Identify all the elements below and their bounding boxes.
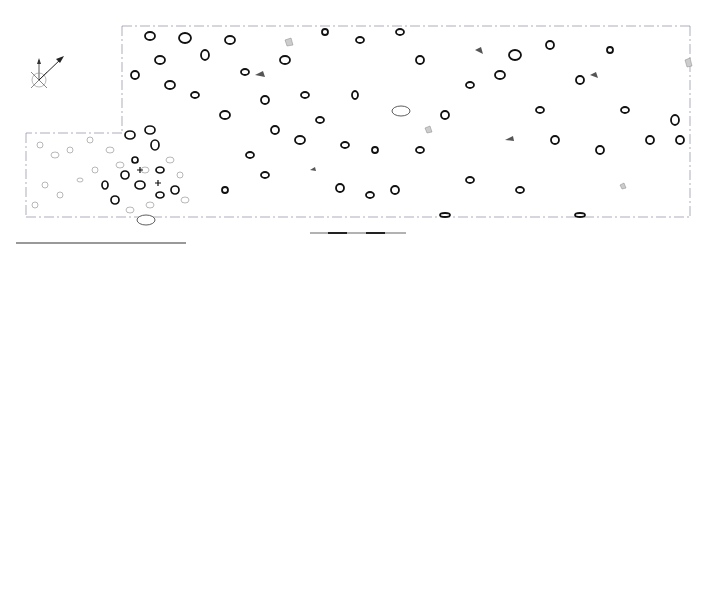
- scale-bar-a: [308, 222, 408, 242]
- find-cluster: [32, 126, 189, 213]
- plan-outline-a: [26, 26, 690, 217]
- burnt-flint-finds: [131, 29, 684, 217]
- feature-label-823: [137, 215, 155, 225]
- panel-a-plan: [0, 0, 715, 589]
- feature-label-822: [392, 106, 410, 116]
- bone-finds: [255, 47, 598, 171]
- north-arrow-icon: [31, 56, 64, 88]
- unused: [16, 242, 186, 244]
- pot-finds: [285, 38, 692, 189]
